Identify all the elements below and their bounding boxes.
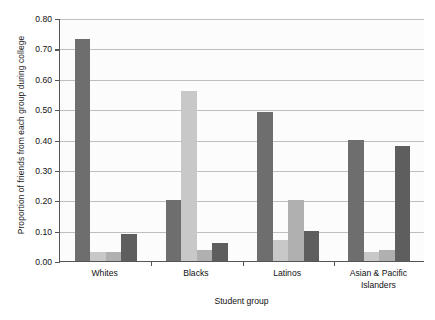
y-axis-tick-label-group: 0.000.100.200.300.400.500.600.700.80	[16, 19, 52, 262]
x-tick-mark	[334, 261, 335, 266]
x-axis-tick-label: Whites	[59, 268, 151, 280]
bar-chart-figure: Proportion of friends from each group du…	[0, 0, 435, 320]
y-axis-tick-label: 0.70	[16, 44, 52, 54]
y-axis-tick-label: 0.50	[16, 105, 52, 115]
bar	[348, 140, 364, 262]
x-axis-tick-label-line: Latinos	[241, 268, 333, 280]
bar	[106, 252, 122, 261]
bar	[121, 234, 137, 261]
y-tick-mark	[55, 262, 60, 263]
y-axis-tick-label: 0.40	[16, 136, 52, 146]
bar	[166, 200, 182, 261]
bar	[288, 200, 304, 261]
x-tick-mark	[151, 261, 152, 266]
x-axis-title: Student group	[59, 296, 424, 306]
bar	[181, 91, 197, 261]
x-axis-tick-label-line: Islanders	[332, 280, 424, 292]
bar	[90, 252, 106, 261]
bars-group	[60, 19, 424, 261]
x-axis-tick-label-line: Blacks	[150, 268, 242, 280]
bar	[273, 240, 289, 261]
x-axis-tick-label-line: Whites	[59, 268, 151, 280]
bar	[364, 252, 380, 261]
x-tick-mark	[243, 261, 244, 266]
x-axis-tick-label: Latinos	[241, 268, 333, 280]
bar	[212, 243, 228, 261]
bar	[379, 250, 395, 261]
y-axis-tick-label: 0.60	[16, 75, 52, 85]
bar	[257, 112, 273, 261]
plot-area	[59, 19, 424, 262]
y-axis-tick-label: 0.80	[16, 14, 52, 24]
bar	[304, 231, 320, 261]
y-axis-tick-label: 0.10	[16, 227, 52, 237]
x-axis-tick-label: Asian & PacificIslanders	[332, 268, 424, 291]
y-axis-tick-label: 0.00	[16, 257, 52, 267]
y-axis-tick-label: 0.20	[16, 196, 52, 206]
bar	[197, 250, 213, 261]
y-axis-tick-label: 0.30	[16, 166, 52, 176]
bar	[75, 39, 91, 261]
bar	[395, 146, 411, 261]
x-axis-tick-label-line: Asian & Pacific	[332, 268, 424, 280]
x-axis-tick-label: Blacks	[150, 268, 242, 280]
